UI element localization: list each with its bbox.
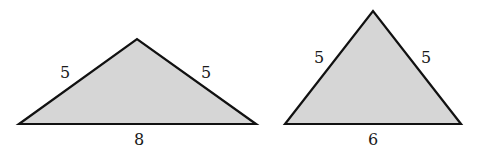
triangle-2-right-side-label: 5: [421, 48, 431, 67]
triangle-2: 5 5 6: [285, 11, 461, 148]
diagram-canvas: 5 5 8 5 5 6: [0, 0, 484, 148]
triangle-1-right-side-label: 5: [201, 63, 211, 82]
triangle-2-shape: [285, 11, 461, 124]
triangle-2-left-side-label: 5: [314, 48, 324, 67]
triangle-1-shape: [19, 39, 256, 124]
triangle-figure: 5 5 8 5 5 6: [0, 0, 484, 148]
triangle-2-base-label: 6: [368, 130, 378, 149]
triangle-1-base-label: 8: [134, 130, 144, 149]
triangle-1-left-side-label: 5: [60, 63, 70, 82]
triangle-1: 5 5 8: [19, 39, 256, 148]
